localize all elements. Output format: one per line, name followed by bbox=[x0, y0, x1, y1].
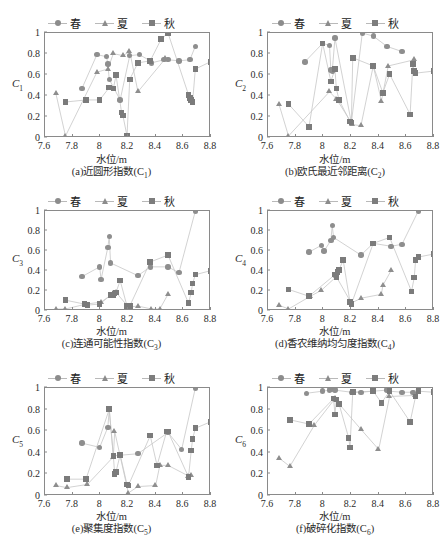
data-point bbox=[105, 66, 111, 71]
caption-main: (d)香农维纳均匀度指数(C bbox=[275, 338, 388, 349]
y-tick-mark bbox=[267, 210, 270, 211]
square-glyph bbox=[149, 198, 155, 204]
subplot-d: 春夏秋00.20.40.60.817.67.888.28.48.68.8C4水位… bbox=[223, 182, 447, 357]
x-tick-mark bbox=[378, 492, 379, 495]
legend-entry-autumn[interactable]: 秋 bbox=[366, 193, 399, 209]
legend-entry-summer[interactable]: 夏 bbox=[95, 193, 128, 209]
y-tick-label: 0.2 bbox=[28, 111, 41, 122]
y-tick-mark bbox=[44, 473, 47, 474]
data-point bbox=[431, 251, 433, 257]
legend-entry-autumn[interactable]: 秋 bbox=[366, 370, 399, 386]
legend-entry-spring[interactable]: 春 bbox=[48, 15, 81, 31]
data-point bbox=[328, 79, 334, 85]
legend-label-autumn: 秋 bbox=[164, 370, 175, 386]
circle-marker-icon bbox=[48, 23, 67, 24]
data-point bbox=[111, 428, 117, 433]
legend-entry-spring[interactable]: 春 bbox=[48, 193, 81, 209]
data-point bbox=[416, 388, 422, 394]
y-tick-mark bbox=[44, 387, 47, 388]
legend-label-autumn: 秋 bbox=[388, 15, 399, 31]
x-tick-mark bbox=[295, 307, 296, 310]
legend-label-autumn: 秋 bbox=[388, 193, 399, 209]
legend-entry-spring[interactable]: 春 bbox=[272, 15, 305, 31]
data-point bbox=[79, 86, 84, 91]
legend-entry-autumn[interactable]: 秋 bbox=[142, 370, 175, 386]
y-tick-mark bbox=[44, 116, 47, 117]
data-point bbox=[193, 210, 198, 214]
circle-marker-icon bbox=[48, 201, 67, 202]
legend-label-summer: 夏 bbox=[341, 15, 352, 31]
data-point bbox=[306, 124, 312, 130]
data-point bbox=[64, 476, 70, 482]
x-tick-mark bbox=[350, 492, 351, 495]
x-tick-mark bbox=[295, 492, 296, 495]
y-tick-label: 0.6 bbox=[28, 69, 41, 80]
data-point bbox=[111, 453, 117, 459]
x-tick-mark bbox=[99, 492, 100, 495]
data-point bbox=[113, 290, 119, 296]
triangle-glyph bbox=[325, 375, 331, 381]
data-point bbox=[319, 243, 324, 248]
x-tick-mark bbox=[155, 492, 156, 495]
data-point bbox=[287, 417, 293, 423]
legend-entry-autumn[interactable]: 秋 bbox=[142, 193, 175, 209]
legend-entry-spring[interactable]: 春 bbox=[272, 193, 305, 209]
x-tick-mark bbox=[322, 307, 323, 310]
data-point bbox=[176, 58, 181, 63]
data-point bbox=[186, 300, 192, 306]
data-point bbox=[165, 429, 171, 435]
legend-entry-summer[interactable]: 夏 bbox=[319, 193, 352, 209]
square-marker-icon bbox=[366, 23, 385, 24]
legend-entry-summer[interactable]: 夏 bbox=[319, 15, 352, 31]
data-point bbox=[346, 435, 352, 441]
legend-entry-summer[interactable]: 夏 bbox=[95, 370, 128, 386]
y-tick-mark bbox=[267, 473, 270, 474]
caption-tail: ) bbox=[148, 523, 152, 534]
data-point bbox=[63, 297, 69, 303]
data-point bbox=[380, 90, 386, 96]
x-tick-label: 8.2 bbox=[344, 140, 357, 151]
data-point bbox=[332, 66, 338, 72]
y-axis-label-subscript: 1 bbox=[19, 83, 23, 92]
data-point bbox=[106, 406, 112, 412]
data-point bbox=[378, 291, 384, 296]
data-point bbox=[409, 289, 415, 295]
data-point bbox=[105, 245, 110, 250]
x-tick-mark bbox=[350, 134, 351, 137]
legend-entry-autumn[interactable]: 秋 bbox=[142, 15, 175, 31]
x-tick-mark bbox=[210, 134, 211, 137]
x-tick-mark bbox=[127, 492, 128, 495]
data-point bbox=[94, 52, 99, 57]
data-point bbox=[306, 249, 311, 254]
data-point bbox=[85, 302, 91, 308]
y-tick-mark bbox=[267, 32, 270, 33]
data-point bbox=[387, 71, 393, 77]
caption-tail: ) bbox=[148, 166, 152, 177]
y-axis-label-c: C3 bbox=[12, 252, 23, 267]
subplot-caption-d: (d)香农维纳均匀度指数(C4) bbox=[223, 335, 447, 352]
data-point bbox=[63, 99, 69, 105]
y-tick-label: 0.8 bbox=[251, 225, 264, 236]
x-tick-mark bbox=[155, 134, 156, 137]
legend-entry-summer[interactable]: 夏 bbox=[319, 370, 352, 386]
legend-entry-autumn[interactable]: 秋 bbox=[366, 15, 399, 31]
data-point bbox=[148, 264, 153, 269]
data-point bbox=[358, 426, 364, 431]
data-point bbox=[208, 59, 210, 65]
x-tick-mark bbox=[378, 134, 379, 137]
plot-area-f: 00.20.40.60.817.67.888.28.48.68.8 bbox=[267, 387, 433, 495]
x-tick-mark bbox=[322, 492, 323, 495]
triangle-glyph bbox=[102, 375, 108, 381]
x-tick-label: 8 bbox=[97, 140, 102, 151]
y-axis-label-e: C5 bbox=[12, 433, 23, 448]
data-point bbox=[350, 389, 356, 395]
data-point bbox=[135, 88, 141, 93]
legend-entry-spring[interactable]: 春 bbox=[272, 370, 305, 386]
data-point bbox=[286, 287, 292, 293]
legend-entry-summer[interactable]: 夏 bbox=[95, 15, 128, 31]
legend-label-summer: 夏 bbox=[117, 193, 128, 209]
data-point bbox=[152, 482, 158, 487]
data-point bbox=[431, 68, 433, 74]
legend-entry-spring[interactable]: 春 bbox=[48, 370, 81, 386]
data-point bbox=[135, 483, 141, 488]
